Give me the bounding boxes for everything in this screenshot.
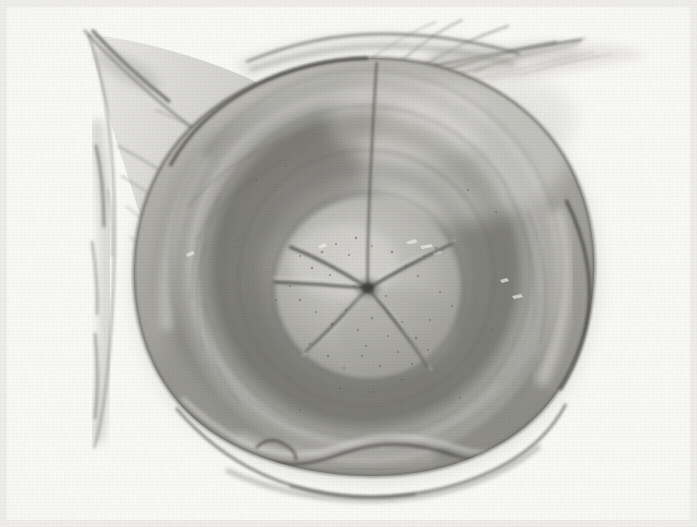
paper-grain-overlay — [0, 0, 697, 527]
anatomical-figure — [0, 0, 697, 527]
illustration-canvas — [0, 0, 697, 527]
